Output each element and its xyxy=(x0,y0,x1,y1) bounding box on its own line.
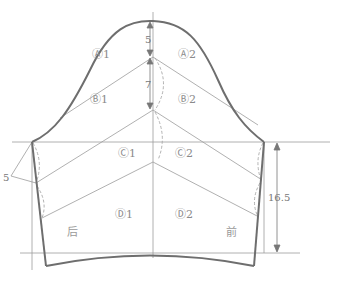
region-c2-label: Ⓒ2 xyxy=(175,147,193,160)
guide-lines xyxy=(11,12,330,270)
hem-curve xyxy=(46,256,254,267)
diag-cd-left xyxy=(42,162,153,218)
dashed-mid-curve xyxy=(155,112,162,160)
back-label: 后 xyxy=(67,226,78,239)
front-underarm-seam xyxy=(254,142,264,266)
region-b1-label: Ⓑ1 xyxy=(90,93,108,106)
region-d1-label: Ⓓ1 xyxy=(115,208,133,221)
dim-cap-top-label: 5 xyxy=(145,34,151,45)
sleeve-pattern-diagram: Ⓐ1 Ⓐ2 Ⓑ1 Ⓑ2 Ⓒ1 Ⓒ2 Ⓓ1 Ⓓ2 后 前 5 7 5 16.5 xyxy=(0,0,337,287)
dim-underarm-label: 16.5 xyxy=(268,192,290,203)
region-a1-label: Ⓐ1 xyxy=(92,48,110,61)
diag-cd-right xyxy=(153,162,259,217)
region-a2-label: Ⓐ2 xyxy=(178,48,196,61)
offset-leader-top xyxy=(11,142,32,176)
diag-bc-right xyxy=(153,110,262,180)
back-underarm-seam xyxy=(32,142,46,266)
region-d2-label: Ⓓ2 xyxy=(175,208,193,221)
dimension-arrows xyxy=(147,22,280,252)
dashed-cap-curve xyxy=(155,58,164,110)
region-c1-label: Ⓒ1 xyxy=(118,147,136,160)
diagram-svg: Ⓐ1 Ⓐ2 Ⓑ1 Ⓑ2 Ⓒ1 Ⓒ2 Ⓓ1 Ⓓ2 后 前 5 7 5 16.5 xyxy=(0,0,337,287)
dim-cap-mid-label: 7 xyxy=(145,79,151,90)
diag-ab-right xyxy=(153,57,258,125)
front-label: 前 xyxy=(226,225,237,239)
region-b2-label: Ⓑ2 xyxy=(178,93,196,106)
diag-ab-left xyxy=(60,57,153,118)
dim-left-offset-label: 5 xyxy=(3,172,9,183)
